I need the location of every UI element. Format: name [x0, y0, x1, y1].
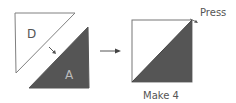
small-arrow-icon	[49, 47, 54, 52]
label-a: A	[65, 68, 74, 82]
press-label: Press	[200, 7, 226, 18]
half-square-triangle-diagram: D A Press Make 4	[0, 0, 236, 103]
separated-triangles: D A	[15, 13, 89, 88]
right-arrow-icon	[100, 49, 121, 54]
caption-make-4: Make 4	[143, 90, 179, 101]
label-d: D	[27, 27, 36, 41]
assembled-square	[132, 19, 198, 82]
press-arrow-head-icon	[194, 20, 198, 23]
